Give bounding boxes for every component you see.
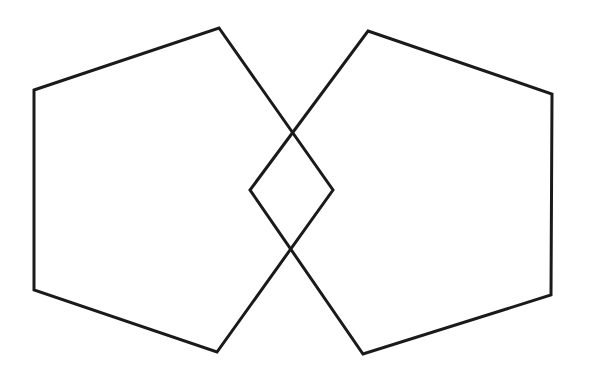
overlapping-pentagons-diagram — [0, 0, 595, 376]
background — [0, 0, 595, 376]
